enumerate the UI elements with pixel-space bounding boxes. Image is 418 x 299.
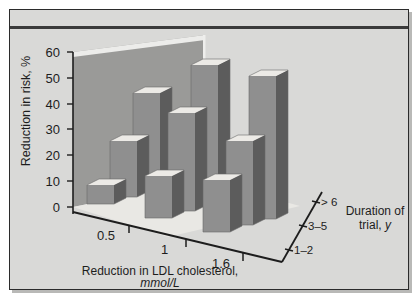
- bar-x0.5-z1-2: [87, 179, 126, 204]
- bar-x1.6-z1-2: [203, 174, 242, 232]
- top-rule-divider: [10, 26, 408, 29]
- bar-chart-3d: [0, 0, 418, 299]
- y-axis-ticks: [67, 52, 73, 207]
- bar-x1-z1-2: [145, 170, 184, 218]
- figure-container: 60 50 40 30 20 10 0 Reduction in risk, %…: [0, 0, 418, 299]
- z-axis-ticks: [285, 201, 320, 251]
